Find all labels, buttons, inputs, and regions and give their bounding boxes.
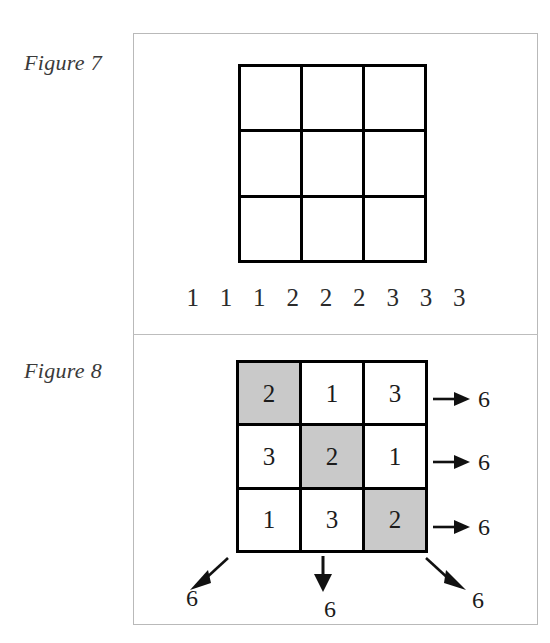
figure-8-cell-r2c2: 2 — [302, 426, 365, 489]
figure-7-number-3: 1 — [243, 283, 276, 313]
arrow-right-icon — [432, 516, 472, 538]
figure-8-cell-r2c3: 1 — [365, 426, 428, 489]
figure-7-cell-r2c1 — [241, 132, 303, 197]
figure-7-number-1: 1 — [176, 283, 209, 313]
figure-7-number-2: 1 — [209, 283, 242, 313]
figure-7-number-strip: 1 1 1 2 2 2 3 3 3 — [176, 283, 476, 313]
figure-7-cell-r1c3 — [365, 67, 427, 132]
figure-8-cell-r1c3: 3 — [365, 363, 428, 426]
figure-8-column-arrow — [310, 556, 336, 594]
figure-7-number-8: 3 — [409, 283, 442, 313]
figure-8-cell-r2c1: 3 — [239, 426, 302, 489]
arrow-right-icon — [432, 388, 472, 410]
figure-7-cell-r1c1 — [241, 67, 303, 132]
figure-8-row-sum-1: 6 — [432, 387, 490, 411]
figure-8-row-sum-2-value: 6 — [478, 450, 490, 474]
figure-8-grid: 2 1 3 3 2 1 1 3 2 — [236, 360, 428, 553]
arrow-right-icon — [432, 451, 472, 473]
figure-8-row-sum-2: 6 — [432, 450, 490, 474]
figure-7-grid — [238, 64, 427, 263]
figure-8-cell-r3c2: 3 — [302, 490, 365, 553]
figure-8-row-sum-3-value: 6 — [478, 515, 490, 539]
figure-7-number-6: 2 — [343, 283, 376, 313]
figure-7-caption: Figure 7 — [24, 50, 102, 76]
figure-7-number-7: 3 — [376, 283, 409, 313]
figure-7-number-5: 2 — [309, 283, 342, 313]
figure-8-anti-diagonal-sum-value: 6 — [186, 586, 198, 610]
figure-7-cell-r3c1 — [241, 198, 303, 263]
figure-8-row-sum-1-value: 6 — [478, 387, 490, 411]
figure-8-main-diagonal-arrow — [424, 556, 470, 594]
figure-8-cell-r3c1: 1 — [239, 490, 302, 553]
figure-8-cell-r3c3: 2 — [365, 490, 428, 553]
figure-7-cell-r3c2 — [303, 198, 365, 263]
panel-divider — [133, 334, 538, 335]
figure-7-number-4: 2 — [276, 283, 309, 313]
figure-8-column-sum-value: 6 — [324, 597, 336, 621]
figure-8-row-sum-3: 6 — [432, 515, 490, 539]
figure-8-main-diagonal-sum-value: 6 — [472, 588, 484, 612]
arrow-down-right-icon — [424, 556, 470, 594]
figure-7-cell-r2c2 — [303, 132, 365, 197]
figure-7-cell-r2c3 — [365, 132, 427, 197]
figure-8-cell-r1c1: 2 — [239, 363, 302, 426]
figure-7-number-9: 3 — [443, 283, 476, 313]
figure-7-cell-r3c3 — [365, 198, 427, 263]
figure-8-cell-r1c2: 1 — [302, 363, 365, 426]
figure-7-cell-r1c2 — [303, 67, 365, 132]
arrow-down-icon — [310, 556, 336, 594]
figure-8-caption: Figure 8 — [24, 358, 102, 384]
